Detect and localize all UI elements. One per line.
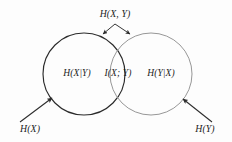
- label-conditional-y-given-x: H(Y|X): [147, 69, 175, 79]
- hy-leader-arrow: [183, 99, 212, 122]
- label-entropy-x: H(X): [20, 124, 40, 134]
- label-mutual-information: I(X; Y): [105, 69, 132, 79]
- label-conditional-x-given-y: H(X|Y): [63, 69, 91, 79]
- hx-leader-arrow: [20, 98, 52, 122]
- information-theory-venn-figure: H(X, Y) H(X|Y) I(X; Y) H(Y|X) H(X) H(Y): [0, 0, 232, 142]
- joint-entropy-pointer-left: [103, 24, 115, 34]
- joint-entropy-pointer-right: [115, 24, 130, 34]
- label-joint-entropy: H(X, Y): [100, 9, 131, 19]
- label-entropy-y: H(Y): [195, 124, 214, 134]
